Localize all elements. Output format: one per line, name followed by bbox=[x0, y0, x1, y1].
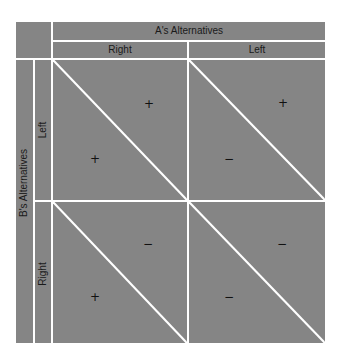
cell-bright-aright bbox=[53, 202, 187, 343]
column-header-right-label: Right bbox=[53, 42, 187, 58]
diagonal-divider bbox=[53, 60, 187, 200]
payoff-upper-right: + bbox=[144, 98, 154, 110]
row-header-left-label: Left bbox=[38, 110, 48, 150]
column-header-left-label: Left bbox=[189, 42, 325, 58]
payoff-upper-right: + bbox=[278, 97, 288, 109]
payoff-lower-left: − bbox=[224, 153, 234, 165]
cell-bleft-aright bbox=[53, 60, 187, 200]
column-player-label: A's Alternatives bbox=[53, 22, 325, 40]
cell-bleft-aleft bbox=[189, 60, 325, 200]
row-header-right-label: Right bbox=[38, 254, 48, 294]
corner-block bbox=[16, 22, 51, 58]
payoff-lower-left: + bbox=[90, 291, 100, 303]
payoff-upper-right: − bbox=[277, 238, 287, 250]
diagonal-divider bbox=[189, 60, 325, 200]
payoff-upper-right: − bbox=[143, 238, 153, 250]
payoff-lower-left: − bbox=[224, 291, 234, 303]
cell-bright-aleft bbox=[189, 202, 325, 343]
payoff-lower-left: + bbox=[90, 153, 100, 165]
row-player-label: B's Alternatives bbox=[19, 133, 29, 233]
diagonal-divider bbox=[189, 202, 325, 343]
diagonal-divider bbox=[53, 202, 187, 343]
